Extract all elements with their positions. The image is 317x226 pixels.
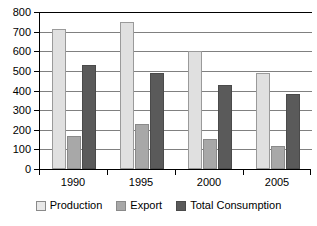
y-tick-label: 600 (13, 46, 31, 57)
chart-legend: ProductionExportTotal Consumption (0, 200, 317, 211)
y-tick-label: 800 (13, 7, 31, 18)
y-tick-label: 100 (13, 144, 31, 155)
legend-label: Total Consumption (190, 200, 281, 211)
x-divider (39, 170, 40, 175)
bar-group-1995 (108, 12, 176, 169)
x-divider (243, 170, 244, 175)
legend-label: Production (50, 200, 103, 211)
legend-item-production[interactable]: Production (36, 200, 103, 211)
y-tick-label: 0 (25, 164, 31, 175)
x-axis: 1990199520002005 (39, 170, 311, 192)
x-tick-label-2005: 2005 (265, 177, 289, 188)
legend-swatch-icon (176, 201, 186, 211)
bar-chart: 0100200300400500600700800 19901995200020… (0, 0, 317, 226)
bar-production-1990 (52, 29, 66, 169)
bar-group-2005 (244, 12, 312, 169)
x-divider (310, 170, 311, 175)
y-tick-label: 400 (13, 85, 31, 96)
bar-export-2000 (203, 139, 217, 169)
y-tick-label: 700 (13, 26, 31, 37)
bar-production-2005 (256, 73, 270, 169)
bar-group-1990 (40, 12, 108, 169)
x-tick-label-1995: 1995 (129, 177, 153, 188)
legend-item-export[interactable]: Export (116, 200, 162, 211)
y-tick-label: 300 (13, 105, 31, 116)
legend-item-total-consumption[interactable]: Total Consumption (176, 200, 281, 211)
x-divider (175, 170, 176, 175)
bar-total-consumption-2005 (286, 94, 300, 169)
legend-swatch-icon (116, 201, 126, 211)
bar-export-1990 (67, 136, 81, 169)
y-tick-label: 500 (13, 65, 31, 76)
bar-export-1995 (135, 124, 149, 169)
legend-swatch-icon (36, 201, 46, 211)
x-tick-label-1990: 1990 (61, 177, 85, 188)
bar-production-2000 (188, 51, 202, 169)
bar-total-consumption-1990 (82, 65, 96, 169)
plot-area (39, 12, 311, 170)
bar-production-1995 (120, 22, 134, 169)
bar-total-consumption-2000 (218, 85, 232, 169)
bar-group-2000 (176, 12, 244, 169)
y-tick-label: 200 (13, 124, 31, 135)
legend-label: Export (130, 200, 162, 211)
bar-export-2005 (271, 146, 285, 169)
x-divider (107, 170, 108, 175)
x-tick-label-2000: 2000 (197, 177, 221, 188)
bar-total-consumption-1995 (150, 73, 164, 169)
y-axis: 0100200300400500600700800 (0, 0, 39, 182)
